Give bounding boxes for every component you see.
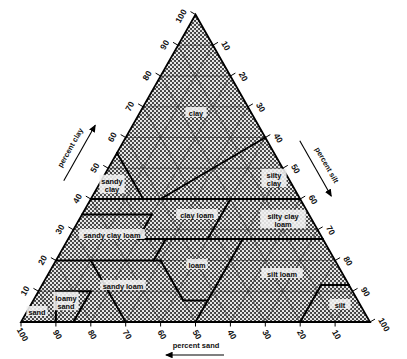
tick-label-sand-50: 50 (190, 328, 204, 341)
region-label-sandy-clay: sandyclay (99, 175, 124, 194)
tick-label-clay-10: 10 (18, 284, 32, 297)
region-label-text: clay (105, 185, 120, 194)
region-label-silt-loam: silt loam (261, 268, 302, 279)
region-label-text: sandy loam (103, 282, 144, 291)
tick-label-sand-40: 40 (225, 328, 239, 341)
region-label-text: clay loam (180, 211, 214, 220)
region-label-silt: silt (329, 299, 350, 310)
region-label-text: sand (28, 308, 46, 317)
ternary-diagram-svg: 1009080706050403020101020304050607080901… (0, 0, 407, 359)
tick-label-silt-60: 60 (306, 193, 320, 206)
region-label-sandy-loam: sandy loam (100, 280, 146, 291)
tick-label-clay-20: 20 (36, 253, 50, 266)
tick-label-clay-70: 70 (123, 100, 137, 113)
region-label-loamy-sand: loamysand (53, 292, 78, 311)
region-label-text: clay (189, 109, 204, 118)
soil-texture-triangle-figure: 1009080706050403020101020304050607080901… (0, 0, 407, 359)
tick-label-sand-80: 80 (86, 328, 100, 341)
axis-title-percent-sand: percent sand (173, 341, 220, 350)
tick-label-clay-40: 40 (71, 192, 85, 205)
tick-label-sand-90: 90 (51, 328, 65, 341)
tick-label-sand-10: 10 (330, 328, 344, 341)
tick-label-sand-70: 70 (121, 328, 135, 341)
tick-label-clay-50: 50 (88, 161, 102, 174)
tick-label-silt-10: 10 (219, 39, 233, 52)
tick-label-silt-40: 40 (272, 132, 286, 145)
region-label-silty-clay: siltyclay (261, 169, 286, 188)
region-label-loam: loam (186, 259, 207, 270)
tick-label-silt-100: 100 (376, 316, 392, 334)
tick-label-sand-60: 60 (156, 328, 170, 341)
region-label-text: silt (335, 301, 346, 310)
tick-label-silt-90: 90 (359, 285, 373, 298)
tick-label-clay-30: 30 (53, 223, 67, 236)
tick-label-sand-30: 30 (260, 328, 274, 341)
region-label-silty-clay-loam: silty clayloam (260, 210, 306, 229)
region-label-text: silt loam (267, 270, 297, 279)
region-label-text: sandy clay loam (83, 231, 141, 240)
tick-label-silt-80: 80 (341, 255, 355, 268)
region-label-clay: clay (185, 107, 206, 118)
tick-label-sand-100: 100 (15, 326, 31, 344)
region-label-clay-loam: clay loam (176, 209, 217, 220)
tick-label-silt-30: 30 (254, 101, 268, 114)
region-label-text: loam (274, 220, 292, 229)
region-label-sand: sand (26, 306, 47, 317)
tick-label-clay-80: 80 (140, 69, 154, 82)
tick-label-clay-90: 90 (158, 38, 172, 51)
tick-label-silt-70: 70 (324, 224, 338, 237)
region-label-sandy-clay-loam: sandy clay loam (79, 229, 145, 240)
axis-title-percent-clay: percent clay (56, 126, 86, 169)
tick-label-silt-20: 20 (237, 70, 251, 83)
region-label-text: sand (57, 302, 75, 311)
tick-label-clay-60: 60 (106, 130, 120, 143)
tick-label-clay-100: 100 (173, 7, 189, 25)
axis-title-percent-silt: percent silt (313, 145, 341, 185)
region-label-text: clay (267, 179, 282, 188)
region-label-text: loam (188, 261, 206, 270)
tick-label-silt-50: 50 (289, 162, 303, 175)
tick-label-sand-20: 20 (295, 328, 309, 341)
